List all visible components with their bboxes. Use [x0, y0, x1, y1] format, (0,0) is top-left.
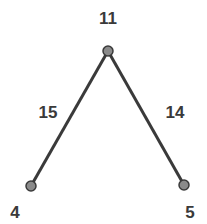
- node-right: [179, 180, 189, 190]
- edge-label-right: 14: [166, 103, 185, 122]
- edge-label-left: 15: [39, 103, 58, 122]
- node-label-right: 5: [185, 203, 194, 222]
- node-left: [26, 181, 36, 191]
- node-label-top: 11: [99, 9, 117, 28]
- node-top: [103, 46, 113, 56]
- tree-diagram: 11 4 5 15 14: [0, 0, 207, 224]
- node-label-left: 4: [10, 203, 20, 222]
